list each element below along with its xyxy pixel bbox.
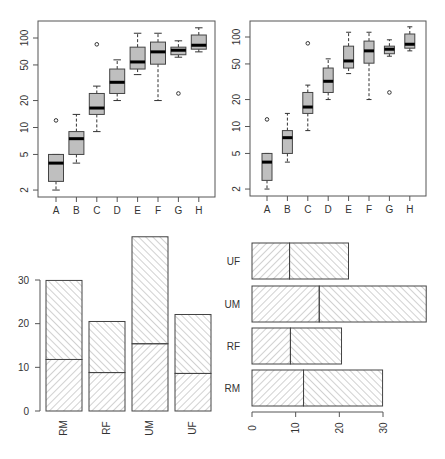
box-iqr [405, 34, 415, 48]
x-tick-label: G [386, 204, 394, 215]
box-D [323, 59, 333, 100]
y-tick-label: 2 [19, 187, 30, 193]
y-axis-labels: RMRFUMUF [224, 256, 240, 394]
x-tick-label: H [406, 204, 413, 215]
box-E [130, 33, 145, 74]
boxplot-left: 10050201052 ABCDEFGH [19, 21, 215, 216]
box-C [303, 42, 313, 131]
bar-group [252, 243, 426, 406]
barplot-vertical: 0102030 RMRFUMUF [18, 237, 211, 436]
box-iqr [130, 47, 145, 69]
y-category-label: UF [227, 256, 240, 267]
box-A [49, 119, 64, 190]
bar-group [46, 237, 211, 411]
y-tick-label: 0 [23, 406, 29, 417]
y-tick-label: 20 [18, 318, 30, 329]
outlier-point [388, 91, 392, 95]
box-A [262, 118, 272, 189]
bar-segment-upper [290, 243, 349, 279]
x-tick-label: 30 [378, 422, 389, 434]
x-tick-label: B [73, 205, 80, 216]
x-tick-label: 0 [247, 425, 258, 431]
boxplot-right: 10050201052 ABCDEFGH [231, 21, 426, 215]
y-tick-label: 100 [19, 29, 30, 46]
y-tick-label: 20 [231, 94, 242, 106]
box-iqr [49, 154, 64, 181]
x-tick-label: E [134, 205, 141, 216]
y-category-label: RM [224, 383, 240, 394]
bar-segment-lower [175, 373, 211, 411]
box-D [110, 60, 125, 101]
barplot-horizontal: 0102030 RMRFUMUF [224, 243, 426, 434]
bar-segment-upper [89, 321, 125, 372]
x-tick-label: A [264, 204, 271, 215]
box-C [89, 43, 104, 132]
x-category-label: UF [187, 421, 198, 434]
outlier-point [265, 118, 269, 122]
x-tick-label: C [304, 204, 311, 215]
plot-frame [250, 21, 426, 196]
x-category-label: RM [58, 420, 69, 436]
outlier-point [95, 43, 99, 47]
y-tick-label: 5 [19, 151, 30, 157]
box-F [364, 32, 374, 99]
y-tick-label: 10 [19, 122, 30, 134]
x-tick-label: C [93, 205, 100, 216]
x-category-label: RF [101, 421, 112, 434]
bar-segment-lower [89, 373, 125, 411]
x-tick-label: D [114, 205, 121, 216]
outlier-point [306, 42, 310, 46]
y-tick-label: 10 [231, 121, 242, 133]
figure: 10050201052 ABCDEFGH 10050201052 ABCDEFG… [0, 0, 445, 459]
box-iqr [191, 35, 206, 49]
y-tick-label: 100 [231, 28, 242, 45]
x-tick-label: H [195, 205, 202, 216]
bar-segment-lower [46, 359, 82, 411]
y-axis: 10050201052 [231, 28, 250, 192]
x-axis: ABCDEFGH [264, 196, 414, 215]
bar-segment-lower [252, 370, 304, 406]
y-axis: 10050201052 [19, 29, 38, 193]
box-iqr [262, 153, 272, 180]
x-tick-label: F [155, 205, 161, 216]
y-tick-label: 50 [19, 59, 30, 71]
y-tick-label: 5 [231, 150, 242, 156]
x-tick-label: G [175, 205, 183, 216]
bar-segment-lower [132, 344, 168, 411]
plot-frame [38, 21, 215, 197]
x-tick-label: E [345, 204, 352, 215]
box-iqr [89, 93, 104, 114]
y-tick-label: 30 [18, 275, 30, 286]
y-tick-label: 50 [231, 58, 242, 70]
bar-segment-upper [304, 370, 383, 406]
x-axis-labels: RMRFUMUF [58, 420, 198, 436]
x-tick-label: A [53, 205, 60, 216]
y-tick-label: 20 [19, 95, 30, 107]
x-tick-label: F [366, 204, 372, 215]
x-tick-label: 20 [334, 422, 345, 434]
y-tick-label: 2 [231, 186, 242, 192]
bar-segment-upper [319, 286, 426, 322]
bar-segment-upper [290, 328, 341, 364]
outlier-point [54, 119, 58, 123]
box-B [69, 114, 84, 163]
x-axis: ABCDEFGH [53, 197, 203, 216]
box-H [405, 27, 415, 51]
box-group [262, 27, 415, 189]
box-E [344, 32, 354, 73]
x-tick-label: 10 [290, 422, 301, 434]
bar-segment-upper [175, 314, 211, 373]
y-category-label: RF [227, 341, 240, 352]
bar-segment-lower [252, 286, 319, 322]
bar-segment-upper [46, 280, 82, 359]
x-category-label: UM [144, 420, 155, 436]
box-iqr [344, 46, 354, 68]
y-axis: 0102030 [18, 275, 40, 417]
x-tick-label: B [284, 204, 291, 215]
box-iqr [303, 92, 313, 113]
box-iqr [282, 131, 292, 154]
x-tick-label: D [325, 204, 332, 215]
bar-segment-upper [132, 237, 168, 344]
y-category-label: UM [224, 299, 240, 310]
box-F [151, 33, 166, 100]
